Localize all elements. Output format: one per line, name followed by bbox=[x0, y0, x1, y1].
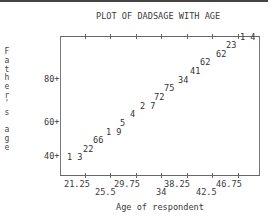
x-tick bbox=[85, 173, 86, 178]
data-point: 75 bbox=[164, 84, 174, 93]
data-point: 72 bbox=[154, 93, 164, 102]
x-tick bbox=[238, 173, 239, 178]
x-tick bbox=[85, 34, 86, 39]
y-tick-80: 80+ bbox=[44, 75, 60, 84]
x-axis-label: Age of respondent bbox=[116, 202, 204, 212]
data-point: 2 7 bbox=[140, 102, 156, 111]
x-tick bbox=[136, 173, 137, 178]
x-tick-label: 42.5 bbox=[196, 187, 217, 197]
chart-title: PLOT OF DADSAGE WITH AGE bbox=[96, 12, 220, 21]
x-tick bbox=[136, 34, 137, 39]
data-point: 66 bbox=[93, 136, 103, 145]
data-point: 1 3 bbox=[67, 153, 83, 162]
data-point: 62 bbox=[200, 58, 210, 67]
right-axis bbox=[259, 36, 260, 175]
data-point: 22 bbox=[83, 145, 93, 154]
data-point: 34 bbox=[178, 76, 188, 85]
ylabel-char: s bbox=[3, 109, 11, 118]
x-tick bbox=[187, 173, 188, 178]
x-tick bbox=[238, 34, 239, 39]
x-tick-label: 46.75 bbox=[216, 179, 242, 189]
y-tick-40: 40+ bbox=[44, 152, 60, 161]
x-tick bbox=[161, 34, 162, 39]
x-tick bbox=[110, 173, 111, 178]
y-tick-60: 60+ bbox=[44, 118, 60, 127]
left-axis bbox=[60, 36, 61, 175]
data-point: 23 bbox=[226, 41, 236, 50]
ylabel-char: e bbox=[3, 144, 11, 153]
x-tick bbox=[187, 34, 188, 39]
x-tick-label: 21.25 bbox=[64, 179, 90, 189]
data-point: 4 bbox=[130, 110, 135, 119]
x-tick bbox=[161, 173, 162, 178]
x-tick bbox=[110, 34, 111, 39]
data-point: 1 9 bbox=[106, 128, 122, 137]
x-tick bbox=[212, 34, 213, 39]
data-point: 41 bbox=[190, 67, 200, 76]
x-tick-label: 34 bbox=[156, 187, 166, 197]
x-tick-label: 38.25 bbox=[164, 179, 190, 189]
bottom-axis-border bbox=[60, 175, 260, 176]
data-point: 1 4 bbox=[240, 33, 256, 42]
x-tick-label: 29.75 bbox=[114, 179, 140, 189]
data-point: 62 bbox=[216, 50, 226, 59]
x-tick bbox=[212, 173, 213, 178]
x-tick-label: 25.5 bbox=[95, 187, 116, 197]
top-axis-border bbox=[60, 36, 260, 37]
header-rule bbox=[0, 0, 268, 2]
